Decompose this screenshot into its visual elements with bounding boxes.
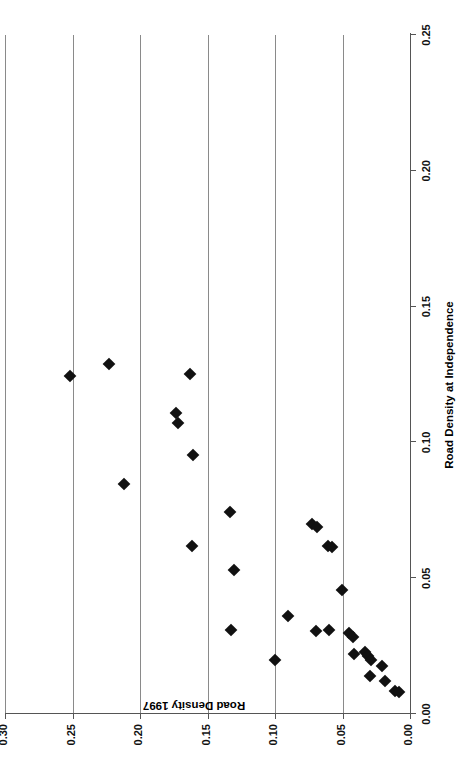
data-point — [117, 478, 130, 491]
scatter-figure: 0.000.050.100.150.200.25 0.000.050.100.1… — [0, 0, 468, 770]
data-point — [186, 448, 199, 461]
rotated-figure-container: 0.000.050.100.150.200.25 0.000.050.100.1… — [0, 0, 468, 770]
data-point — [172, 417, 185, 430]
data-point — [225, 623, 238, 636]
data-point — [184, 368, 197, 381]
chart-page: 0.000.050.100.150.200.25 0.000.050.100.1… — [0, 0, 468, 770]
data-point — [281, 610, 294, 623]
data-point — [103, 357, 116, 370]
y-axis-title: Road Density 1997 — [44, 700, 344, 712]
data-point — [186, 539, 199, 552]
data-points-layer — [0, 0, 468, 770]
x-axis-title: Road Density at Independence — [443, 0, 455, 770]
data-point — [323, 623, 336, 636]
data-point — [335, 584, 348, 597]
data-point — [348, 648, 361, 661]
data-point — [309, 625, 322, 638]
data-point — [227, 564, 240, 577]
data-point — [269, 653, 282, 666]
data-point — [363, 670, 376, 683]
data-point — [376, 660, 389, 673]
data-point — [379, 675, 392, 688]
data-point — [223, 505, 236, 518]
data-point — [64, 369, 77, 382]
